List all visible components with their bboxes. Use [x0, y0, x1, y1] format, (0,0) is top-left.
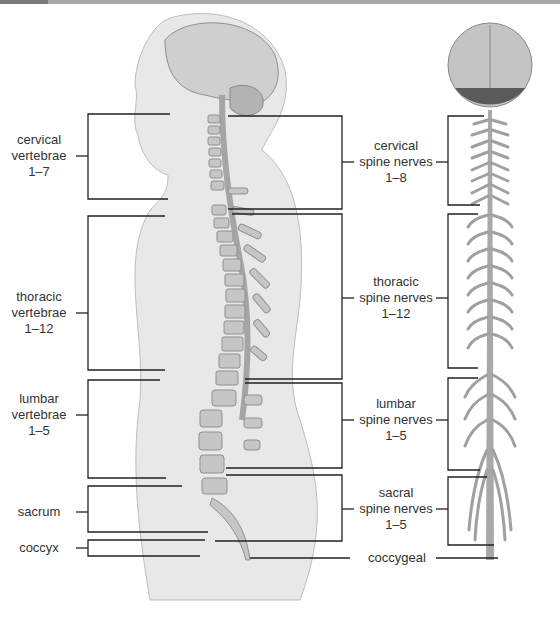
label-line: 1–8 [356, 170, 436, 186]
label-line: sacral [356, 485, 436, 501]
label-line: vertebrae [4, 305, 74, 321]
label-lumbar-vertebrae: lumbar vertebrae 1–5 [4, 391, 74, 439]
label-line: spine nerves [356, 154, 436, 170]
label-line: 1–5 [356, 517, 436, 533]
label-coccyx: coccyx [4, 540, 74, 556]
label-cervical-vertebrae: cervical vertebrae 1–7 [4, 132, 74, 180]
label-line: cervical [356, 138, 436, 154]
label-thoracic-vertebrae: thoracic vertebrae 1–12 [4, 289, 74, 337]
label-line: vertebrae [4, 407, 74, 423]
label-line: spine nerves [356, 290, 436, 306]
label-lumbar-nerves: lumbar spine nerves 1–5 [356, 396, 436, 444]
label-line: thoracic [4, 289, 74, 305]
label-line: 1–7 [4, 164, 74, 180]
cerebellum-frontal [455, 88, 525, 105]
label-line: sacrum [4, 504, 74, 520]
label-cervical-nerves: cervical spine nerves 1–8 [356, 138, 436, 186]
label-thoracic-nerves: thoracic spine nerves 1–12 [356, 274, 436, 322]
label-line: vertebrae [4, 148, 74, 164]
label-sacral-nerves: sacral spine nerves 1–5 [356, 485, 436, 533]
label-line: 1–12 [4, 321, 74, 337]
label-line: spine nerves [356, 501, 436, 517]
label-line: 1–5 [4, 423, 74, 439]
anatomy-illustration [0, 0, 560, 618]
label-line: coccyx [4, 540, 74, 556]
label-line: spine nerves [356, 412, 436, 428]
label-coccygeal: coccygeal [358, 550, 436, 566]
label-line: lumbar [356, 396, 436, 412]
label-line: cervical [4, 132, 74, 148]
label-sacrum: sacrum [4, 504, 74, 520]
label-line: 1–5 [356, 428, 436, 444]
label-line: thoracic [356, 274, 436, 290]
label-line: lumbar [4, 391, 74, 407]
label-line: coccygeal [358, 550, 436, 566]
label-line: 1–12 [356, 306, 436, 322]
